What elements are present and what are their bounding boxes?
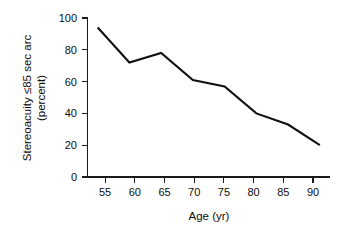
y-tick-label: 20	[65, 139, 77, 151]
y-axis-title-line2: (percent)	[35, 75, 47, 121]
x-tick-label: 80	[247, 186, 259, 198]
y-tick-label: 100	[59, 12, 77, 24]
x-tick-label: 65	[158, 186, 170, 198]
y-tick-label: 60	[65, 76, 77, 88]
y-tick-label: 0	[71, 171, 77, 183]
x-tick-label: 55	[99, 186, 111, 198]
stereoacuity-line-chart: 100 80 60 40 20 0 55 60 65 70 75 80 85	[0, 0, 355, 240]
x-tick-label: 90	[307, 186, 319, 198]
x-tick-label: 70	[188, 186, 200, 198]
x-tick-label: 60	[129, 186, 141, 198]
x-axis-title: Age (yr)	[189, 210, 230, 222]
x-tick-label: 75	[218, 186, 230, 198]
y-axis-title-line1: Stereoacuity ≤85 sec arc	[21, 35, 33, 162]
chart-figure: 100 80 60 40 20 0 55 60 65 70 75 80 85	[0, 0, 355, 240]
y-tick-label: 80	[65, 44, 77, 56]
y-tick-label: 40	[65, 107, 77, 119]
chart-background	[0, 0, 355, 240]
x-tick-label: 85	[277, 186, 289, 198]
